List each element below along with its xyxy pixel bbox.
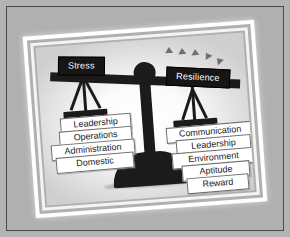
right-pan-sign: Resilience xyxy=(166,66,230,88)
triangle-up-icon xyxy=(191,48,199,55)
triangle-up-icon xyxy=(178,47,186,54)
diagram-canvas: Stress Resilience Leadership Operations … xyxy=(0,0,290,237)
left-pan-sign: Stress xyxy=(58,56,105,75)
triangle-up-icon xyxy=(165,46,173,53)
image-mat: Stress Resilience Leadership Operations … xyxy=(6,6,284,231)
balance-scale-illustration: Stress Resilience Leadership Operations … xyxy=(35,32,254,205)
illustration-plate: Stress Resilience Leadership Operations … xyxy=(35,32,254,205)
triangle-up-icon xyxy=(214,55,224,65)
triangle-up-icon xyxy=(203,50,213,59)
rotated-frame: Stress Resilience Leadership Operations … xyxy=(23,19,268,218)
